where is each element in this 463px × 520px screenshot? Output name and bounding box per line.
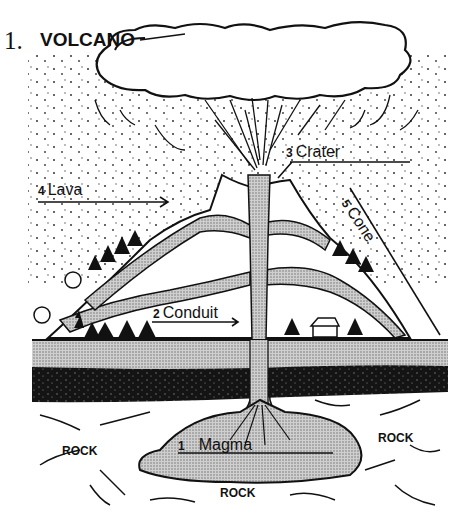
ash-cloud — [97, 22, 411, 100]
diagram-title: VOLCANO — [40, 30, 135, 49]
label-magma: 1Magma — [178, 437, 252, 453]
soil-layer — [32, 340, 448, 368]
volcano-diagram: 1. VOLCANO 3Crater 4Lava 5Cone 2Conduit … — [0, 0, 463, 520]
label-rock-left: ROCK — [62, 445, 97, 457]
label-rock-right: ROCK — [378, 432, 413, 444]
label-conduit: 2Conduit — [153, 305, 218, 321]
label-lava: 4Lava — [38, 182, 82, 198]
house — [311, 318, 339, 337]
label-crater: 3Crater — [286, 144, 340, 160]
dark-rock-layer — [32, 365, 448, 402]
diagram-number: 1. — [4, 28, 23, 53]
label-rock-bottom: ROCK — [220, 487, 255, 499]
